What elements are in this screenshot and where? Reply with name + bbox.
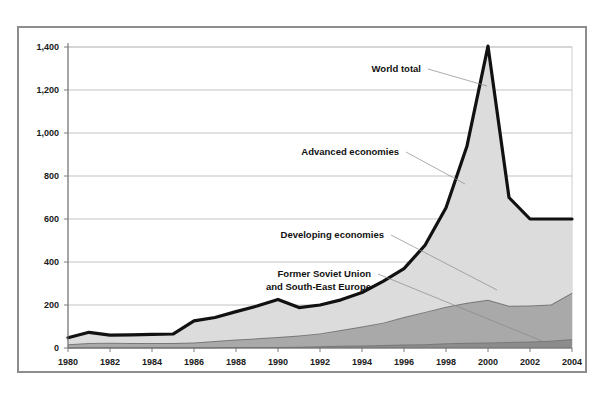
x-tick-label: 1980	[58, 357, 78, 367]
x-tick-label: 2002	[520, 357, 540, 367]
annotation-fsu-line1: Former Soviet Union	[278, 268, 372, 279]
y-tick-label: 0	[54, 343, 59, 353]
x-tick-label: 1986	[184, 357, 204, 367]
y-tick-label: 600	[44, 214, 59, 224]
x-axis-tick-labels: 1980198219841986198819901992199419961998…	[58, 357, 582, 367]
y-tick-label: 1,200	[36, 85, 59, 95]
y-tick-label: 1,000	[36, 128, 59, 138]
x-tick-label: 2000	[478, 357, 498, 367]
x-tick-label: 1990	[268, 357, 288, 367]
annotation-advanced-economies: Advanced economies	[301, 146, 399, 157]
x-tick-label: 2004	[562, 357, 582, 367]
y-tick-label: 800	[44, 171, 59, 181]
annotation-developing-economies: Developing economies	[281, 229, 384, 240]
y-tick-label: 400	[44, 257, 59, 267]
x-tick-label: 1996	[394, 357, 414, 367]
x-tick-label: 1998	[436, 357, 456, 367]
y-axis-tick-labels: 02004006008001,0001,2001,400	[36, 42, 59, 353]
x-tick-label: 1994	[352, 357, 372, 367]
x-tick-label: 1984	[142, 357, 162, 367]
y-tick-label: 1,400	[36, 42, 59, 52]
annotation-fsu-line2: and South-East Europe	[266, 281, 371, 292]
x-tick-label: 1982	[100, 357, 120, 367]
y-tick-label: 200	[44, 300, 59, 310]
x-tick-label: 1992	[310, 357, 330, 367]
annotation-world-total: World total	[372, 63, 421, 74]
stacked-area-chart: 02004006008001,0001,2001,400 19801982198…	[0, 0, 604, 399]
x-tick-label: 1988	[226, 357, 246, 367]
chart-canvas: 02004006008001,0001,2001,400 19801982198…	[0, 0, 604, 399]
